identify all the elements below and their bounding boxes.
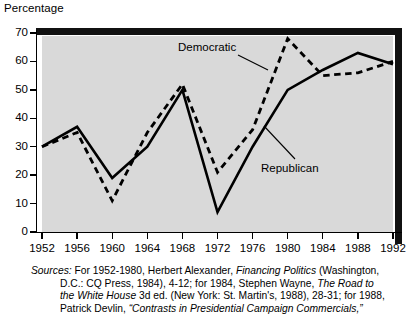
source-note: Sources: For 1952-1980, Herbert Alexande… [31,265,405,315]
y-tick-20 [30,174,37,175]
y-tick-70 [30,32,37,33]
y-tick-60 [30,61,37,62]
source-note-line-4: Patrick Devlin, “Contrasts in Presidenti… [31,303,405,316]
source-note-line-1: Sources: For 1952-1980, Herbert Alexande… [31,265,405,278]
x-tick-1972 [217,233,218,239]
source-note-line4-a: Patrick Devlin, [60,303,129,314]
x-tick-1960 [112,233,113,239]
x-tick-label-1976: 1976 [233,242,273,254]
x-tick-label-1980: 1980 [268,242,308,254]
source-note-line-2: D.C.: CQ Press, 1984), 4-12; for 1984, S… [31,278,405,291]
chart-figure: Percentage 010203040506070 1952195619601… [0,0,410,323]
source-note-line1-title: Financing Politics [236,265,316,276]
y-tick-label-70: 70 [2,27,28,39]
y-tick-label-10: 10 [2,198,28,210]
y-tick-10 [30,203,37,204]
source-note-line1-b: (Washington, [316,265,379,276]
y-tick-0 [30,231,37,232]
x-tick-label-1992: 1992 [373,242,410,254]
plot-frame-top-shadow [36,28,402,35]
source-note-line3-title: the White House [60,290,136,301]
x-tick-label-1984: 1984 [303,242,343,254]
x-tick-label-1968: 1968 [162,242,202,254]
x-tick-label-1972: 1972 [198,242,238,254]
y-tick-label-0: 0 [2,226,28,238]
y-tick-30 [30,146,37,147]
x-tick-1980 [287,233,288,239]
plot-frame-right-shadow [395,28,402,244]
x-axis-line [36,232,402,233]
plot-area [42,36,393,232]
x-tick-label-1960: 1960 [92,242,132,254]
y-tick-label-20: 20 [2,169,28,181]
source-note-line2-title: The Road to [317,278,374,289]
y-tick-label-30: 30 [2,141,28,153]
source-note-line4-title: “Contrasts in Presidential Campaign Comm… [129,303,363,314]
x-tick-1976 [252,233,253,239]
x-tick-1952 [41,233,42,239]
x-tick-1964 [147,233,148,239]
source-note-line2-a: D.C.: CQ Press, 1984), 4-12; for 1984, S… [60,278,317,289]
x-tick-1984 [322,233,323,239]
x-tick-1968 [182,233,183,239]
x-tick-label-1988: 1988 [338,242,378,254]
x-tick-label-1964: 1964 [127,242,167,254]
x-tick-label-1952: 1952 [22,242,62,254]
source-note-line3-rest: 3d ed. (New York: St. Martin's, 1988), 2… [136,290,385,301]
y-tick-label-50: 50 [2,84,28,96]
x-tick-1992 [392,233,393,239]
y-tick-50 [30,89,37,90]
source-note-line1-a: For 1952-1980, Herbert Alexander, [72,265,236,276]
y-tick-40 [30,118,37,119]
series-label-democratic: Democratic [178,41,236,53]
y-tick-label-60: 60 [2,55,28,67]
x-tick-1956 [76,233,77,239]
y-tick-label-40: 40 [2,112,28,124]
x-tick-1988 [357,233,358,239]
series-label-republican: Republican [261,162,319,174]
x-tick-label-1956: 1956 [57,242,97,254]
source-note-line-3: the White House 3d ed. (New York: St. Ma… [31,290,405,303]
source-note-label: Sources: [31,265,72,276]
y-axis-caption: Percentage [4,2,64,14]
